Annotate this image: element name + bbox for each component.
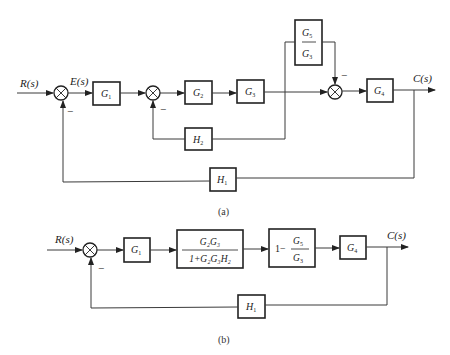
h2-feedback-arrow [153, 101, 185, 139]
svg-text:1−: 1− [275, 243, 286, 254]
block-h1-a: H1 [210, 168, 236, 191]
feedforward-arrow [322, 42, 335, 84]
caption-a: (a) [218, 206, 229, 218]
block-g1-a: G1 [93, 82, 120, 105]
svg-text:1+G₂G₃H₂: 1+G₂G₃H₂ [189, 254, 231, 264]
summing-junction-2-icon [146, 86, 160, 100]
output-label-a: C(s) [413, 72, 432, 85]
block-g4-b: G4 [340, 236, 366, 259]
sum2-minus-sign: − [160, 103, 166, 115]
diagram-b: R(s) − G1 G₂G₃ 1+G₂G₃H₂ 1− G5 G3 [47, 229, 408, 346]
diagram-a: R(s) − E(s) G1 − G2 [17, 20, 435, 218]
block-g3: G3 [237, 80, 264, 103]
block-inner-loop: G₂G₃ 1+G₂G₃H₂ [177, 230, 243, 268]
block-g5-over-g3: G5 G3 [295, 20, 322, 65]
block-h1-b: H1 [238, 295, 265, 318]
input-label-b: R(s) [54, 233, 74, 246]
sum3-minus-sign: − [341, 69, 347, 81]
error-label: E(s) [69, 75, 89, 88]
block-g4-a: G4 [367, 79, 393, 102]
summing-junction-3-icon [328, 85, 342, 99]
svg-text:G₂G₃: G₂G₃ [200, 237, 220, 247]
block-feedforward: 1− G5 G3 [269, 229, 315, 267]
caption-b: (b) [218, 334, 230, 346]
input-label-a: R(s) [19, 77, 39, 90]
summing-junction-1-icon [54, 86, 68, 100]
output-label-b: C(s) [387, 229, 406, 242]
sum1-minus-sign: − [67, 105, 73, 117]
block-h2: H2 [185, 128, 212, 150]
block-g2: G2 [185, 81, 212, 104]
block-g1-b: G1 [124, 238, 150, 262]
summing-junction-b-icon [83, 243, 97, 257]
sum-b-minus-sign: − [98, 262, 104, 274]
